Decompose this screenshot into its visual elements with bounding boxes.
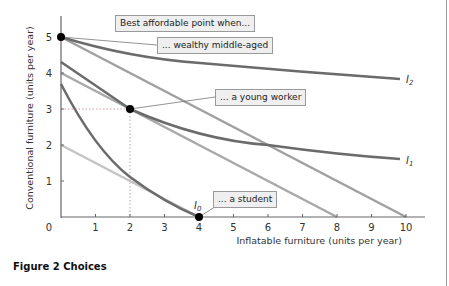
point-young-worker xyxy=(126,105,134,113)
x-tick-label: 4 xyxy=(196,222,202,233)
figure-caption: Figure 2 Choices xyxy=(13,261,107,272)
x-tick-label: 8 xyxy=(334,222,340,233)
callout-wealthy: ... wealthy middle-aged xyxy=(157,37,273,54)
callout-header: Best affordable point when... xyxy=(115,15,255,32)
x-axis-title: Inflatable furniture (units per year) xyxy=(236,235,402,246)
y-tick-label: 4 xyxy=(46,68,52,79)
leader-young xyxy=(130,97,215,109)
x-tick-label: 6 xyxy=(265,222,271,233)
y-tick-label: 1 xyxy=(46,176,52,187)
y-tick-label: 5 xyxy=(46,32,52,43)
callout-student: ... a student xyxy=(213,191,277,208)
i1-label: I1 xyxy=(406,155,413,168)
page-rule xyxy=(446,0,447,286)
y-tick-label: 2 xyxy=(46,140,52,151)
x-tick-label: 7 xyxy=(299,222,305,233)
y-axis-title: Conventional furniture (units per year) xyxy=(24,26,35,210)
callout-young-worker: ... a young worker xyxy=(215,89,306,106)
x-tick-label: 10 xyxy=(400,222,413,233)
x-tick-label: 5 xyxy=(230,222,236,233)
x-tick-label: 3 xyxy=(161,222,167,233)
x-tick-label: 9 xyxy=(368,222,374,233)
i0-label: I0 xyxy=(194,200,202,213)
point-wealthy xyxy=(57,33,65,41)
x-tick-label: 2 xyxy=(127,222,133,233)
point-student xyxy=(195,213,203,221)
i2-label: I2 xyxy=(406,74,414,87)
x-tick-label: 0 xyxy=(46,222,52,233)
y-tick-label: 3 xyxy=(46,104,52,115)
x-tick-label: 1 xyxy=(92,222,98,233)
budget-line-wealthy xyxy=(61,37,406,217)
